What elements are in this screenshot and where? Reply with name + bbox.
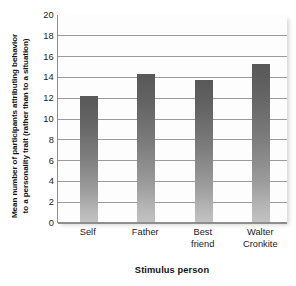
gridline-0 [58,223,287,224]
y-axis-tick-labels: 02468101214161820 [28,15,54,223]
bar-self [80,96,98,222]
y-tick-label-0: 0 [28,218,54,228]
bar-father [137,74,155,222]
y-tick-label-4: 4 [28,176,54,186]
x-tick-label-father: Father [114,227,176,239]
y-tick-label-10: 10 [28,114,54,124]
y-axis-title-line-1: Mean number of participants attributing … [9,34,21,218]
x-axis-title: Stimulus person [57,265,287,275]
bar-best-friend [195,80,213,222]
plot-area [57,15,287,223]
y-tick-label-6: 6 [28,156,54,166]
x-tick-label-walter-cronkite: WalterCronkite [229,227,291,250]
x-tick-label-line: Walter [229,227,291,239]
y-tick-label-2: 2 [28,197,54,207]
y-tick-label-12: 12 [28,93,54,103]
bars-layer [58,15,287,222]
x-axis-tick-labels: SelfFatherBestfriendWalterCronkite [57,227,287,257]
x-tick-label-best-friend: Bestfriend [172,227,234,250]
x-tick-label-line: Cronkite [229,239,291,251]
bar-walter-cronkite [252,64,270,222]
x-tick-label-self: Self [57,227,119,239]
y-tick-label-20: 20 [28,10,54,20]
x-tick-label-line: Best [172,227,234,239]
y-tick-label-18: 18 [28,31,54,41]
y-tick-label-16: 16 [28,52,54,62]
bar-chart: Mean number of participants attributing … [0,0,296,286]
x-tick-label-line: friend [172,239,234,251]
y-tick-label-14: 14 [28,72,54,82]
y-tick-label-8: 8 [28,135,54,145]
x-tick-label-line: Father [114,227,176,239]
x-tick-label-line: Self [57,227,119,239]
